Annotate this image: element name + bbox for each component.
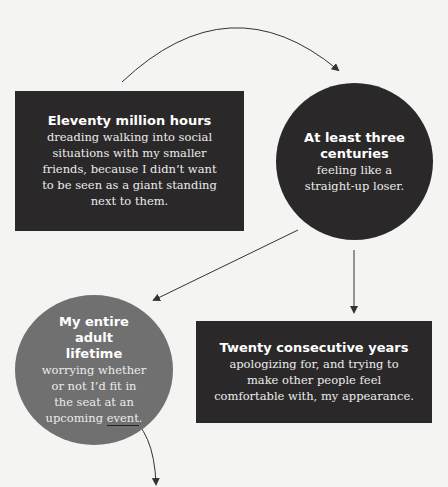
node-entire-adult-lifetime: My entire adult lifetime worrying whethe… (15, 295, 173, 445)
node-title: My entire adult lifetime (41, 314, 147, 362)
underlined-word: event (107, 411, 139, 426)
node-title: Eleventy million hours (48, 113, 212, 129)
node-eleventy-million-hours: Eleventy million hours dreading walking … (15, 91, 244, 231)
node-body-end: . (139, 411, 143, 425)
node-title: At least three centuries (292, 130, 417, 162)
node-three-centuries: At least three centuries feeling like a … (276, 83, 433, 240)
node-body: apologizing for, and trying to make othe… (206, 356, 422, 404)
node-body: feeling like a straight-up loser. (292, 162, 417, 194)
node-body: worrying whether or not I’d fit in the s… (41, 362, 147, 426)
arc-arrow-1-to-2 (122, 28, 338, 82)
node-title: Twenty consecutive years (220, 340, 409, 356)
node-twenty-consecutive-years: Twenty consecutive years apologizing for… (196, 321, 432, 423)
node-body: dreading walking into social situations … (29, 129, 230, 209)
arrow-2-to-3 (154, 230, 298, 300)
